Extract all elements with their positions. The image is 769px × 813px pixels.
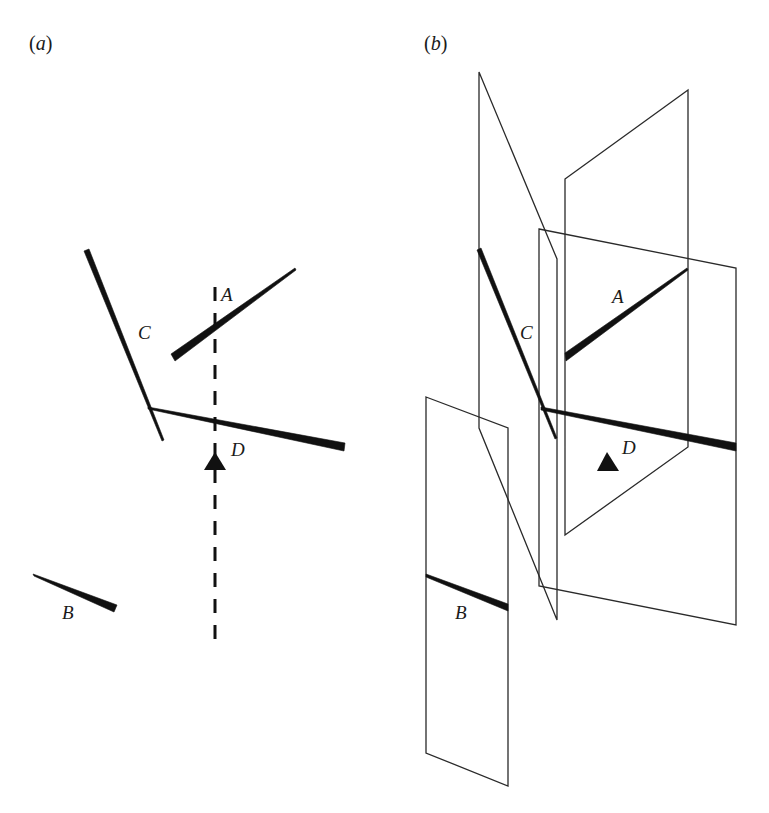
label-b: B bbox=[62, 602, 74, 623]
fault-diagram: (a) A C D B (b) bbox=[0, 0, 769, 813]
label-a: A bbox=[219, 284, 233, 305]
panel-a: (a) A C D B bbox=[29, 32, 345, 645]
panel-a-label: (a) bbox=[29, 32, 52, 55]
label-d-3d: D bbox=[621, 437, 636, 458]
label-b-3d: B bbox=[455, 602, 467, 623]
label-c: C bbox=[138, 322, 151, 343]
label-c-3d: C bbox=[520, 322, 533, 343]
triangle-marker bbox=[204, 452, 226, 470]
panel-b: (b) A C D B bbox=[424, 32, 736, 786]
panel-b-label: (b) bbox=[424, 32, 447, 55]
label-a-3d: A bbox=[610, 286, 624, 307]
fault-b-trace bbox=[33, 574, 117, 612]
triangle-marker-3d bbox=[597, 452, 619, 471]
fault-d-trace bbox=[148, 407, 345, 451]
fault-d-trace-3d bbox=[541, 407, 736, 451]
fault-a-trace-3d bbox=[565, 268, 688, 361]
fault-b-trace-3d bbox=[426, 574, 508, 611]
fault-a-trace bbox=[171, 268, 296, 361]
label-d: D bbox=[230, 439, 245, 460]
fault-c-trace bbox=[84, 249, 164, 441]
